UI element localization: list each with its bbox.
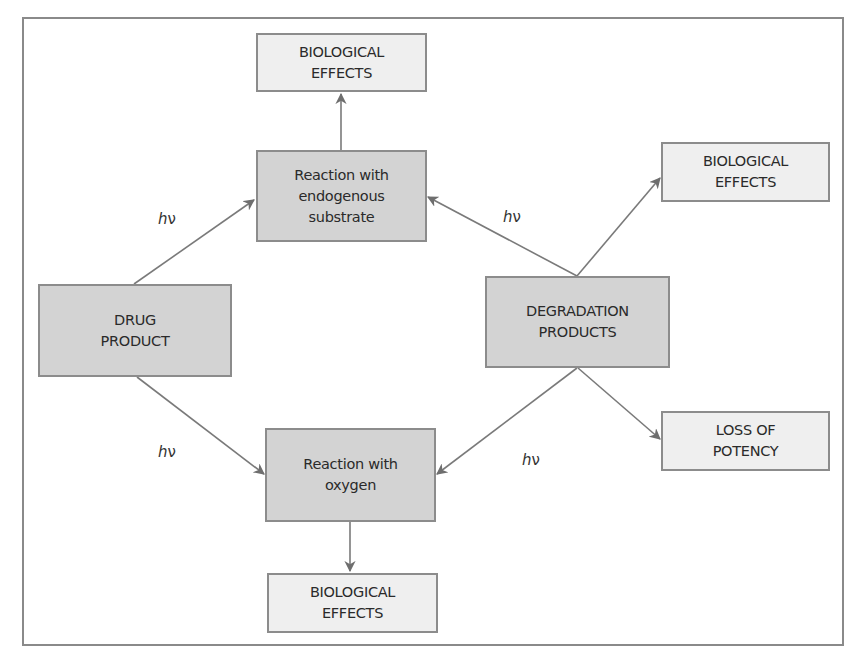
node-label: Reaction with endogenous substrate bbox=[294, 165, 388, 228]
hv-label-drug-to-oxygen: hν bbox=[158, 443, 176, 461]
biological-effects-top-box: BIOLOGICAL EFFECTS bbox=[256, 33, 427, 92]
node-label: Reaction with oxygen bbox=[303, 454, 397, 496]
hv-label-degradation-to-oxygen: hν bbox=[522, 451, 540, 469]
arrow-drug-to-endogenous bbox=[134, 200, 254, 284]
node-label: DEGRADATION PRODUCTS bbox=[526, 301, 629, 343]
node-label: BIOLOGICAL EFFECTS bbox=[310, 582, 395, 624]
arrow-degradation-to-bio-right bbox=[577, 178, 660, 276]
reaction-endogenous-substrate-box: Reaction with endogenous substrate bbox=[256, 150, 427, 242]
biological-effects-bottom-box: BIOLOGICAL EFFECTS bbox=[267, 573, 438, 633]
arrow-drug-to-oxygen bbox=[137, 377, 264, 474]
biological-effects-right-box: BIOLOGICAL EFFECTS bbox=[661, 142, 830, 202]
arrow-degradation-to-loss bbox=[578, 368, 660, 439]
node-label: BIOLOGICAL EFFECTS bbox=[703, 151, 788, 193]
reaction-oxygen-box: Reaction with oxygen bbox=[265, 428, 436, 522]
arrow-degradation-to-oxygen bbox=[437, 368, 577, 474]
hv-label-degradation-to-endogenous: hν bbox=[503, 208, 521, 226]
hv-label-drug-to-endogenous: hν bbox=[158, 210, 176, 228]
drug-product-box: DRUG PRODUCT bbox=[38, 284, 232, 377]
node-label: LOSS OF POTENCY bbox=[713, 420, 779, 462]
node-label: BIOLOGICAL EFFECTS bbox=[299, 42, 384, 84]
degradation-products-box: DEGRADATION PRODUCTS bbox=[485, 276, 670, 368]
node-label: DRUG PRODUCT bbox=[101, 310, 170, 352]
loss-of-potency-box: LOSS OF POTENCY bbox=[661, 411, 830, 471]
